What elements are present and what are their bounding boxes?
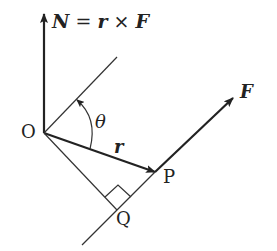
- perpendicular-line-oq: [44, 133, 117, 210]
- label-r: r: [114, 138, 123, 156]
- label-origin: O: [21, 123, 36, 141]
- label-theta: θ: [95, 113, 106, 131]
- eq-cross: ×: [113, 10, 129, 32]
- torque-diagram: N = r × F O θ r P Q F: [0, 0, 277, 251]
- right-angle-mark: [105, 185, 131, 197]
- label-q: Q: [116, 210, 131, 228]
- label-f: F: [240, 83, 253, 101]
- eq-equals: =: [75, 10, 91, 32]
- eq-n: N: [52, 10, 69, 32]
- equation-label: N = r × F: [52, 12, 149, 31]
- eq-r: r: [97, 10, 107, 32]
- diagram-canvas: [0, 0, 277, 251]
- angle-arc-theta: [77, 100, 92, 149]
- eq-f: F: [135, 10, 149, 32]
- position-vector-r: [44, 133, 155, 172]
- reference-line-upper: [44, 57, 117, 133]
- label-p: P: [163, 168, 175, 186]
- force-vector-f: [155, 98, 233, 172]
